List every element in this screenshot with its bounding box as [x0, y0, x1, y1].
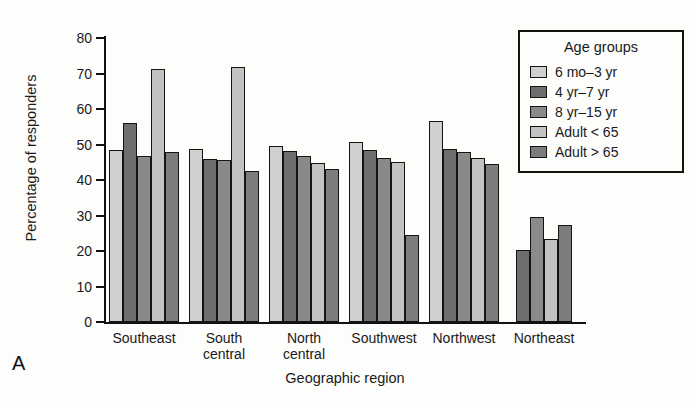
bar — [245, 171, 259, 322]
legend-swatch-icon — [530, 146, 547, 158]
y-axis-tick-label-text: 50 — [58, 138, 92, 152]
y-axis-tick-label: 0 — [52, 315, 92, 329]
bar — [443, 149, 457, 322]
y-axis-tick-mark — [96, 215, 104, 217]
bar-group — [429, 38, 499, 322]
y-axis-tick-mark — [96, 73, 104, 75]
y-axis-tick-label: 50 — [52, 138, 92, 152]
bar — [485, 164, 499, 322]
y-axis-tick-mark — [96, 37, 104, 39]
legend-swatch-icon — [530, 126, 547, 138]
y-axis-tick-label: 20 — [52, 244, 92, 258]
x-axis-title: Geographic region — [104, 370, 586, 386]
bar — [151, 69, 165, 322]
y-axis-title: Percentage of responders — [23, 43, 39, 273]
legend-swatch-icon — [530, 106, 547, 118]
bar — [311, 163, 325, 322]
bar — [269, 146, 283, 322]
legend: Age groups 6 mo–3 yr4 yr–7 yr8 yr–15 yrA… — [518, 30, 684, 173]
y-axis-tick-label-text: 80 — [58, 31, 92, 45]
bar — [297, 156, 311, 322]
legend-item-label: 6 mo–3 yr — [555, 64, 617, 80]
legend-item: Adult < 65 — [530, 122, 672, 142]
x-axis-category-label: Northeast — [490, 330, 598, 346]
bar — [189, 149, 203, 322]
y-axis-tick-label: 80 — [52, 31, 92, 45]
legend-item-label: Adult > 65 — [555, 144, 618, 160]
y-axis-tick-mark — [96, 144, 104, 146]
bar — [457, 152, 471, 322]
y-axis-tick-mark — [96, 108, 104, 110]
plot-area — [104, 38, 584, 322]
y-axis-tick-label: 70 — [52, 67, 92, 81]
y-axis-tick-label: 40 — [52, 173, 92, 187]
legend-title: Age groups — [530, 39, 672, 55]
bar — [349, 142, 363, 322]
y-axis-tick-label: 30 — [52, 209, 92, 223]
bar — [165, 152, 179, 322]
bar — [283, 151, 297, 322]
y-axis-tick-label: 60 — [52, 102, 92, 116]
bar — [405, 235, 419, 322]
y-axis-tick-label: 10 — [52, 280, 92, 294]
bar — [558, 225, 572, 322]
x-axis-line — [104, 322, 586, 324]
bar — [377, 158, 391, 322]
y-axis-tick-label-text: 0 — [58, 315, 92, 329]
legend-swatch-icon — [530, 86, 547, 98]
legend-item: 8 yr–15 yr — [530, 102, 672, 122]
bar-group — [349, 38, 419, 322]
y-axis-tick-mark — [96, 250, 104, 252]
legend-swatch-icon — [530, 66, 547, 78]
bar — [231, 67, 245, 322]
y-axis-tick-label-text: 40 — [58, 173, 92, 187]
bar-group — [189, 38, 259, 322]
y-axis-tick-label-text: 60 — [58, 102, 92, 116]
legend-items: 6 mo–3 yr4 yr–7 yr8 yr–15 yrAdult < 65Ad… — [530, 62, 672, 162]
legend-item: Adult > 65 — [530, 142, 672, 162]
bar — [217, 160, 231, 322]
bar — [530, 217, 544, 322]
bar — [429, 121, 443, 322]
legend-item-label: 4 yr–7 yr — [555, 84, 609, 100]
y-axis-tick-mark — [96, 179, 104, 181]
bar — [325, 169, 339, 322]
legend-item-label: 8 yr–15 yr — [555, 104, 617, 120]
bar — [544, 239, 558, 322]
bar — [109, 150, 123, 322]
bar — [471, 158, 485, 322]
bar — [516, 250, 530, 322]
panel-label: A — [12, 352, 25, 375]
y-axis-tick-label-text: 20 — [58, 244, 92, 258]
bar — [203, 159, 217, 322]
legend-item-label: Adult < 65 — [555, 124, 618, 140]
y-axis-tick-mark — [96, 286, 104, 288]
legend-item: 6 mo–3 yr — [530, 62, 672, 82]
bar — [123, 123, 137, 323]
legend-item: 4 yr–7 yr — [530, 82, 672, 102]
bar-group — [109, 38, 179, 322]
y-axis-tick-label-text: 70 — [58, 67, 92, 81]
bar-group — [269, 38, 339, 322]
figure-panel-a: 01020304050607080 Percentage of responde… — [0, 0, 696, 401]
bar — [391, 162, 405, 322]
y-axis-tick-label-text: 30 — [58, 209, 92, 223]
y-axis-tick-label-text: 10 — [58, 280, 92, 294]
y-axis-tick-mark — [96, 321, 104, 323]
bar — [137, 156, 151, 322]
bar — [363, 150, 377, 322]
